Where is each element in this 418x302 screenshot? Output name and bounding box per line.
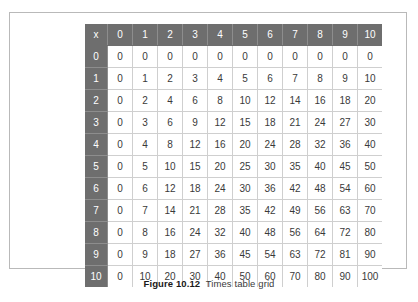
table-cell: 16 xyxy=(308,90,333,112)
table-row: 1 0 1 2 3 4 5 6 7 8 9 10 xyxy=(85,68,382,90)
table-cell: 28 xyxy=(283,134,308,156)
table-cell: 10 xyxy=(233,90,258,112)
row-header-cell: 5 xyxy=(85,156,108,178)
table-cell: 18 xyxy=(258,112,283,134)
table-cell: 24 xyxy=(308,112,333,134)
table-cell: 2 xyxy=(158,68,183,90)
table-cell: 0 xyxy=(183,46,208,68)
table-cell: 36 xyxy=(258,178,283,200)
table-cell: 0 xyxy=(233,46,258,68)
table-cell: 24 xyxy=(208,178,233,200)
row-header-cell: 7 xyxy=(85,200,108,222)
table-cell: 63 xyxy=(283,244,308,266)
table-cell: 48 xyxy=(258,222,283,244)
row-header-cell: 9 xyxy=(85,244,108,266)
table-cell: 0 xyxy=(158,46,183,68)
table-cell: 32 xyxy=(208,222,233,244)
table-cell: 24 xyxy=(258,134,283,156)
table-cell: 0 xyxy=(108,90,133,112)
column-header-cell: 4 xyxy=(208,24,233,46)
times-table-body: x 0 1 2 3 4 5 6 7 8 9 10 0 0 0 0 0 0 0 xyxy=(85,24,382,287)
column-header-cell: 2 xyxy=(158,24,183,46)
table-cell: 15 xyxy=(183,156,208,178)
figure-caption-text: Times table grid xyxy=(206,278,275,289)
table-row: 7 0 7 14 21 28 35 42 49 56 63 70 xyxy=(85,200,382,222)
table-cell: 9 xyxy=(133,244,158,266)
table-cell: 10 xyxy=(358,68,383,90)
table-cell: 70 xyxy=(358,200,383,222)
row-header-cell: 3 xyxy=(85,112,108,134)
table-cell: 81 xyxy=(333,244,358,266)
table-cell: 30 xyxy=(358,112,383,134)
table-cell: 40 xyxy=(233,222,258,244)
table-cell: 54 xyxy=(258,244,283,266)
table-cell: 72 xyxy=(308,244,333,266)
table-cell: 0 xyxy=(208,46,233,68)
table-cell: 10 xyxy=(158,156,183,178)
table-cell: 4 xyxy=(158,90,183,112)
table-cell: 80 xyxy=(358,222,383,244)
row-header-cell: 4 xyxy=(85,134,108,156)
column-header-cell: 10 xyxy=(358,24,383,46)
table-cell: 6 xyxy=(258,68,283,90)
table-cell: 0 xyxy=(108,178,133,200)
table-row: 5 0 5 10 15 20 25 30 35 40 45 50 xyxy=(85,156,382,178)
table-cell: 8 xyxy=(208,90,233,112)
table-cell: 45 xyxy=(233,244,258,266)
figure-caption: Figure 10.12 Times table grid xyxy=(0,278,418,289)
table-cell: 20 xyxy=(233,134,258,156)
table-cell: 42 xyxy=(258,200,283,222)
table-cell: 28 xyxy=(208,200,233,222)
table-cell: 20 xyxy=(358,90,383,112)
table-cell: 21 xyxy=(283,112,308,134)
table-cell: 40 xyxy=(308,156,333,178)
table-cell: 64 xyxy=(308,222,333,244)
table-cell: 72 xyxy=(333,222,358,244)
table-cell: 8 xyxy=(133,222,158,244)
table-cell: 6 xyxy=(183,90,208,112)
table-cell: 15 xyxy=(233,112,258,134)
table-cell: 0 xyxy=(108,244,133,266)
table-cell: 18 xyxy=(183,178,208,200)
table-cell: 8 xyxy=(308,68,333,90)
table-cell: 0 xyxy=(108,112,133,134)
table-cell: 0 xyxy=(108,156,133,178)
column-header-cell: 9 xyxy=(333,24,358,46)
table-cell: 36 xyxy=(333,134,358,156)
column-header-cell: 3 xyxy=(183,24,208,46)
table-cell: 50 xyxy=(358,156,383,178)
table-cell: 21 xyxy=(183,200,208,222)
row-header-cell: 2 xyxy=(85,90,108,112)
table-cell: 18 xyxy=(333,90,358,112)
table-cell: 32 xyxy=(308,134,333,156)
table-corner-cell: x xyxy=(85,24,108,46)
column-header-cell: 1 xyxy=(133,24,158,46)
column-header-cell: 5 xyxy=(233,24,258,46)
table-cell: 3 xyxy=(183,68,208,90)
table-cell: 24 xyxy=(183,222,208,244)
table-cell: 63 xyxy=(333,200,358,222)
table-cell: 3 xyxy=(133,112,158,134)
table-cell: 0 xyxy=(108,134,133,156)
table-cell: 12 xyxy=(208,112,233,134)
row-header-cell: 0 xyxy=(85,46,108,68)
times-table-grid: x 0 1 2 3 4 5 6 7 8 9 10 0 0 0 0 0 0 0 xyxy=(85,24,382,287)
table-cell: 60 xyxy=(358,178,383,200)
table-row: 9 0 9 18 27 36 45 54 63 72 81 90 xyxy=(85,244,382,266)
table-cell: 0 xyxy=(283,46,308,68)
table-cell: 0 xyxy=(133,46,158,68)
table-cell: 2 xyxy=(133,90,158,112)
table-cell: 7 xyxy=(283,68,308,90)
table-cell: 14 xyxy=(158,200,183,222)
table-cell: 49 xyxy=(283,200,308,222)
column-header-cell: 8 xyxy=(308,24,333,46)
table-cell: 16 xyxy=(208,134,233,156)
table-cell: 0 xyxy=(258,46,283,68)
table-cell: 7 xyxy=(133,200,158,222)
table-cell: 12 xyxy=(258,90,283,112)
table-cell: 25 xyxy=(233,156,258,178)
table-row: 2 0 2 4 6 8 10 12 14 16 18 20 xyxy=(85,90,382,112)
table-cell: 0 xyxy=(333,46,358,68)
table-row: 3 0 3 6 9 12 15 18 21 24 27 30 xyxy=(85,112,382,134)
table-cell: 48 xyxy=(308,178,333,200)
